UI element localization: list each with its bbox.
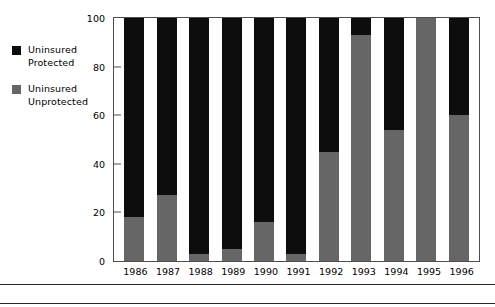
y-axis-tick-label: 20 — [93, 207, 114, 218]
bar-segment-uninsured-unprotected — [254, 222, 274, 261]
x-axis-tick-label: 1994 — [384, 266, 404, 277]
x-axis-tick-label: 1992 — [319, 266, 339, 277]
bar-segment-uninsured-protected — [189, 18, 209, 254]
bar-segment-uninsured-protected — [157, 18, 177, 195]
legend-item-uninsured-unprotected: Uninsured Unprotected — [12, 83, 112, 108]
bar-column — [449, 18, 469, 261]
bar-segment-uninsured-protected — [286, 18, 306, 254]
bar-column — [286, 18, 306, 261]
bar-segment-uninsured-unprotected — [384, 130, 404, 261]
bar-column — [124, 18, 144, 261]
bar-segment-uninsured-protected — [254, 18, 274, 222]
bar-segment-uninsured-unprotected — [157, 195, 177, 261]
bar-column — [384, 18, 404, 261]
legend-label-uninsured-protected: Uninsured Protected — [28, 44, 77, 69]
x-axis-tick-label: 1989 — [221, 266, 241, 277]
bar-segment-uninsured-unprotected — [449, 115, 469, 261]
bar-segment-uninsured-unprotected — [416, 18, 436, 261]
bar-segment-uninsured-unprotected — [189, 254, 209, 261]
bar-column — [222, 18, 242, 261]
bar-segment-uninsured-protected — [319, 18, 339, 152]
bar-segment-uninsured-unprotected — [124, 217, 144, 261]
bar-group — [114, 18, 479, 261]
y-axis-tick-label: 0 — [99, 256, 114, 267]
bar-column — [416, 18, 436, 261]
bar-segment-uninsured-unprotected — [319, 152, 339, 261]
legend-label-uninsured-unprotected: Uninsured Unprotected — [28, 83, 88, 108]
bar-segment-uninsured-protected — [222, 18, 242, 249]
bar-column — [351, 18, 371, 261]
chart-figure: Uninsured Protected Uninsured Unprotecte… — [0, 0, 495, 307]
legend-swatch-uninsured-protected — [12, 46, 21, 55]
bar-segment-uninsured-protected — [124, 18, 144, 217]
x-axis-tick-label: 1991 — [286, 266, 306, 277]
footer-rule-bottom — [0, 303, 495, 304]
plot-area: 020406080100 — [113, 17, 480, 262]
bar-segment-uninsured-unprotected — [351, 35, 371, 261]
x-axis-tick-label: 1987 — [156, 266, 176, 277]
bar-segment-uninsured-protected — [449, 18, 469, 115]
footer-rule-top — [0, 284, 495, 285]
x-axis-tick-label: 1990 — [254, 266, 274, 277]
y-axis-tick-label: 80 — [93, 61, 114, 72]
y-axis-tick-label: 60 — [93, 110, 114, 121]
x-axis-tick-label: 1993 — [352, 266, 372, 277]
x-axis-tick-label: 1988 — [189, 266, 209, 277]
bar-column — [157, 18, 177, 261]
bar-segment-uninsured-protected — [384, 18, 404, 130]
y-axis-tick-label: 40 — [93, 158, 114, 169]
x-axis-tick-labels: 1986198719881989199019911992199319941995… — [113, 266, 480, 277]
y-axis-tick-label: 100 — [87, 13, 114, 24]
bar-segment-uninsured-protected — [351, 18, 371, 35]
legend-swatch-uninsured-unprotected — [12, 85, 21, 94]
bar-column — [319, 18, 339, 261]
bar-segment-uninsured-unprotected — [222, 249, 242, 261]
bar-column — [189, 18, 209, 261]
bar-segment-uninsured-unprotected — [286, 254, 306, 261]
x-axis-tick-label: 1986 — [123, 266, 143, 277]
x-axis-tick-label: 1996 — [450, 266, 470, 277]
bar-column — [254, 18, 274, 261]
x-axis-tick-label: 1995 — [417, 266, 437, 277]
